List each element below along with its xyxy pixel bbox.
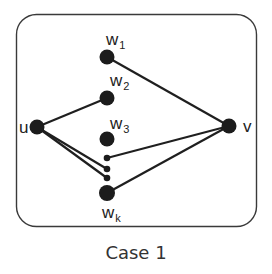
ellipsis-dot-1 (104, 155, 111, 162)
diagram-caption: Case 1 (105, 242, 166, 263)
node-v (222, 119, 237, 134)
label-u: u (19, 118, 28, 137)
node-w1 (100, 50, 115, 65)
node-w3 (100, 132, 115, 147)
label-w2: w2 (109, 71, 129, 92)
ellipsis-dot-2 (104, 166, 111, 173)
node-u (30, 120, 45, 135)
label-w3: w3 (109, 114, 129, 135)
edge-v-wk (107, 126, 229, 193)
label-w1: w1 (105, 30, 125, 51)
ellipsis-dot-3 (104, 175, 111, 182)
node-wk (99, 185, 115, 201)
edge-u-w2 (37, 98, 107, 127)
label-v: v (243, 117, 252, 136)
node-w2 (100, 91, 115, 106)
case-1-graph-diagram: w1 w2 w3 wk u v Case 1 (0, 0, 272, 274)
edge-u-dot3 (37, 127, 107, 178)
label-wk: wk (101, 203, 121, 224)
